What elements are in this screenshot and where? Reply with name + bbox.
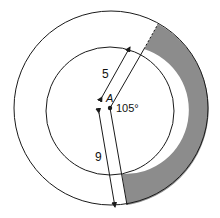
inner-circle [46,47,174,175]
sector-edge-top [110,49,144,108]
angle-label: 105° [116,102,139,114]
center-label: A [105,92,113,104]
shaded-annulus-sector [122,24,209,205]
center-point [108,106,112,110]
inner-radius-label: 5 [102,67,109,81]
annulus-diagram: 5 9 A 105° [0,0,220,218]
outer-radius-label: 9 [95,150,102,164]
